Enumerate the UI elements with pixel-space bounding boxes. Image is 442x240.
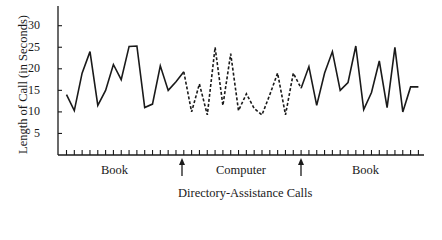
segment-label-book-2: Book — [352, 163, 379, 178]
arrowhead-icon — [179, 158, 185, 165]
series-line-solid — [67, 46, 184, 111]
arrowhead-icon — [298, 158, 304, 165]
segment-label-book-1: Book — [101, 163, 128, 178]
segment-label-computer: Computer — [216, 163, 266, 178]
x-axis-label: Directory-Assistance Calls — [178, 186, 312, 201]
series-line-solid — [301, 46, 418, 112]
series-line-dashed — [184, 47, 301, 115]
